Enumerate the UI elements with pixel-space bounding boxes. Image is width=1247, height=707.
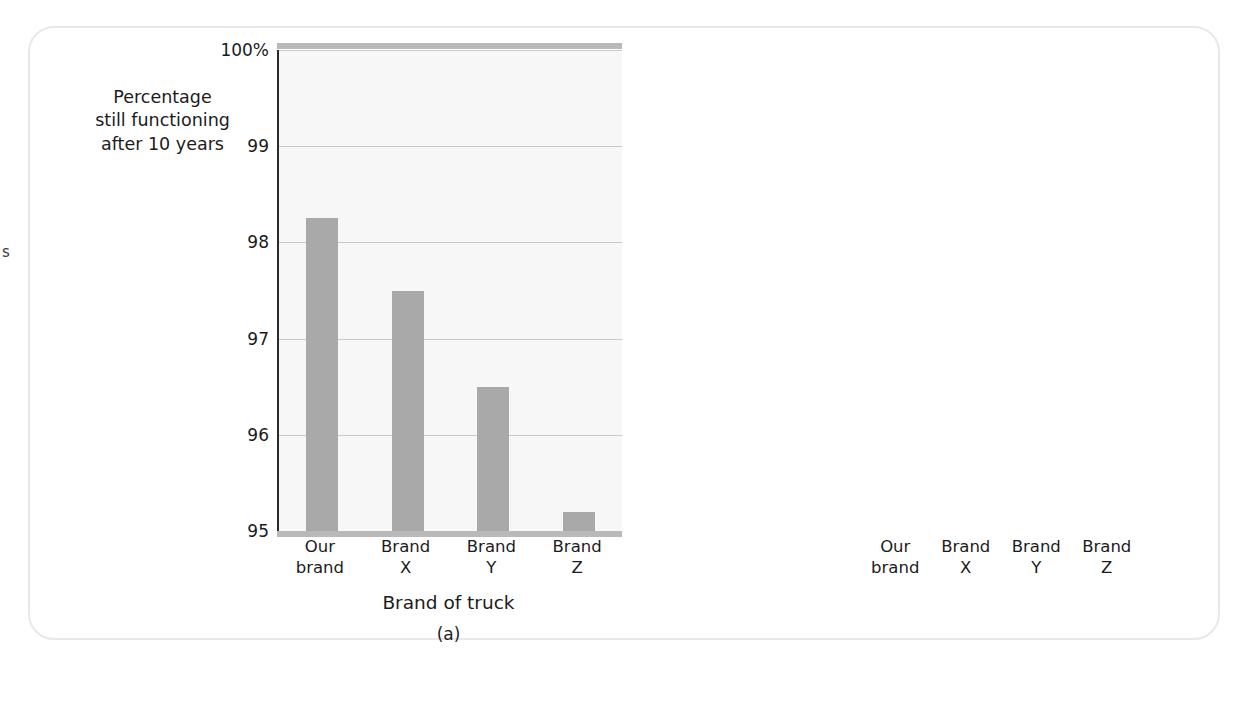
y-tick-label: 99 (247, 136, 269, 156)
subfigure-caption-a: (a) (277, 624, 620, 644)
x-tick-label-line2: Y (449, 557, 535, 578)
x-tick-label-line2: Z (1072, 557, 1143, 578)
x-tick-label: BrandZ (534, 536, 620, 579)
x-tick-label-line1: Brand (534, 536, 620, 557)
x-tick-label-line1: Our (277, 536, 363, 557)
x-tick-label: Ourbrand (860, 536, 931, 579)
x-tick-label-line2: X (363, 557, 449, 578)
gridline (279, 146, 622, 147)
x-tick-label-line2: brand (277, 557, 363, 578)
bar (306, 218, 338, 531)
bar (477, 387, 509, 531)
plot-area-a (277, 50, 622, 531)
x-tick-label: BrandY (1001, 536, 1072, 579)
x-tick-label-line1: Brand (931, 536, 1002, 557)
x-tick-label-line1: Our (860, 536, 931, 557)
x-tick-label-line1: Brand (1072, 536, 1143, 557)
y-tick-label: 96 (247, 425, 269, 445)
chart-a: Percentage still functioning after 10 ye… (0, 0, 660, 707)
y-tick-label: 95 (247, 521, 269, 541)
x-tick-label-line2: Z (534, 557, 620, 578)
x-tick-label-line2: Y (1001, 557, 1072, 578)
y-tick-label: 97 (247, 329, 269, 349)
x-tick-label-line1: Brand (1001, 536, 1072, 557)
chart-b: Percentage still functioning after 10 ye… (640, 0, 1247, 707)
x-tick-label-line1: Brand (363, 536, 449, 557)
x-tick-label-line1: Brand (449, 536, 535, 557)
x-tick-label: BrandX (931, 536, 1002, 579)
x-axis-title-a: Brand of truck (277, 592, 620, 613)
x-tick-label: BrandX (363, 536, 449, 579)
x-tick-label-line2: brand (860, 557, 931, 578)
x-tick-label-line2: X (931, 557, 1002, 578)
bar (563, 512, 595, 531)
bar (392, 291, 424, 532)
x-tick-label: Ourbrand (277, 536, 363, 579)
y-tick-label: 98 (247, 232, 269, 252)
x-tick-label: BrandY (449, 536, 535, 579)
y-tick-label: 100% (220, 40, 269, 60)
gridline (279, 50, 622, 51)
y-axis-ticks-a: 100%9998979695 (190, 0, 269, 481)
x-tick-label: BrandZ (1072, 536, 1143, 579)
